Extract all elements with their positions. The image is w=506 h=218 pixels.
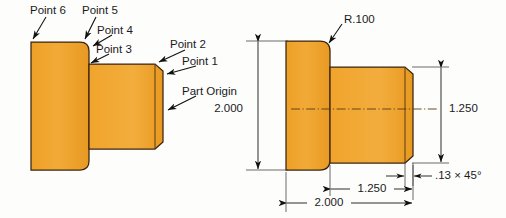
dimension-minor-diameter: 1.250 [412, 67, 478, 163]
radius-note-label: R.100 [344, 13, 375, 25]
drawing-canvas: Point 6 Point 5 Point 4 Point 3 Point 2 … [0, 0, 506, 218]
dimension-major-diameter-label: 2.000 [214, 102, 243, 114]
dimension-minor-diameter-label: 1.250 [449, 102, 478, 114]
callout-part-origin: Part Origin [182, 85, 237, 97]
right-part-major-diameter [286, 41, 330, 170]
radius-note: R.100 [329, 13, 375, 43]
dimension-overall-length-label: 2.000 [315, 196, 344, 208]
left-part-major-diameter [31, 42, 89, 170]
right-part-minor-diameter [330, 67, 413, 163]
dimension-major-diameter: 2.000 [214, 41, 288, 170]
dimension-minor-length: 1.250 [330, 165, 413, 200]
left-part-geometry [31, 42, 163, 170]
chamfer-note: .13 × 45° [386, 163, 481, 186]
chamfer-note-label: .13 × 45° [435, 169, 481, 181]
right-part-geometry [286, 41, 437, 170]
callout-point-5: Point 5 [82, 4, 118, 16]
callout-point-1: Point 1 [182, 55, 218, 67]
technical-drawing-svg: Point 6 Point 5 Point 4 Point 3 Point 2 … [0, 0, 506, 218]
left-part-minor-diameter [89, 64, 163, 149]
callout-point-6: Point 6 [30, 4, 66, 16]
callout-point-3: Point 3 [96, 43, 132, 55]
callout-point-2: Point 2 [170, 38, 206, 50]
callout-point-4: Point 4 [97, 24, 133, 36]
dimension-minor-length-label: 1.250 [358, 182, 387, 194]
